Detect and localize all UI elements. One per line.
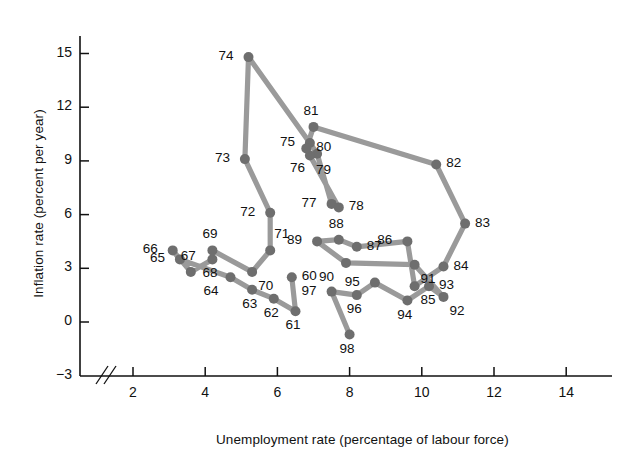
x-axis-label: Unemployment rate (percentage of labour … xyxy=(216,432,509,447)
data-point xyxy=(439,262,449,272)
point-year-label: 69 xyxy=(202,226,217,241)
data-point xyxy=(410,281,420,291)
point-year-label: 75 xyxy=(280,134,295,149)
data-point xyxy=(309,122,319,132)
point-year-label: 85 xyxy=(421,292,436,307)
x-tick-label: 2 xyxy=(113,384,153,400)
data-point xyxy=(291,306,301,316)
point-year-label: 64 xyxy=(203,283,218,298)
data-point xyxy=(402,296,412,306)
data-point xyxy=(327,287,337,297)
x-tick-label: 4 xyxy=(185,384,225,400)
x-tick-label: 12 xyxy=(474,384,514,400)
data-point xyxy=(431,160,441,170)
data-point xyxy=(312,236,322,246)
point-year-label: 63 xyxy=(242,296,257,311)
point-year-label: 96 xyxy=(347,301,362,316)
phillips-curve-figure: Unemployment rate (percentage of labour … xyxy=(0,0,628,469)
point-year-label: 94 xyxy=(397,307,412,322)
data-point xyxy=(247,267,257,277)
data-point xyxy=(247,285,257,295)
point-year-label: 62 xyxy=(264,305,279,320)
data-point xyxy=(269,294,279,304)
point-year-label: 98 xyxy=(340,341,355,356)
x-tick-label: 6 xyxy=(257,384,297,400)
point-year-label: 84 xyxy=(453,258,468,273)
point-year-label: 79 xyxy=(316,162,331,177)
data-point xyxy=(244,52,254,62)
point-year-label: 92 xyxy=(449,303,464,318)
point-year-label: 91 xyxy=(421,271,436,286)
data-point xyxy=(186,267,196,277)
data-point xyxy=(370,278,380,288)
point-year-label: 73 xyxy=(215,150,230,165)
data-point xyxy=(301,143,311,153)
point-year-label: 60 xyxy=(302,268,317,283)
point-year-label: 78 xyxy=(349,198,364,213)
point-year-label: 89 xyxy=(287,232,302,247)
data-point xyxy=(402,236,412,246)
data-point xyxy=(226,272,236,282)
data-point xyxy=(334,235,344,245)
plot-area xyxy=(0,0,628,469)
y-tick-label: 12 xyxy=(34,97,72,113)
data-point xyxy=(352,242,362,252)
data-point xyxy=(334,202,344,212)
y-tick-label: 6 xyxy=(34,205,72,221)
data-point xyxy=(207,254,217,264)
point-year-label: 97 xyxy=(302,283,317,298)
point-year-label: 88 xyxy=(329,216,344,231)
data-point xyxy=(287,272,297,282)
data-point xyxy=(240,154,250,164)
x-tick-label: 14 xyxy=(546,384,586,400)
data-point xyxy=(341,258,351,268)
data-point xyxy=(439,292,449,302)
data-point xyxy=(352,290,362,300)
point-year-label: 72 xyxy=(240,204,255,219)
point-year-label: 66 xyxy=(143,241,158,256)
point-year-label: 77 xyxy=(302,195,317,210)
data-point xyxy=(168,245,178,255)
y-tick-label: −3 xyxy=(34,366,72,382)
x-tick-label: 10 xyxy=(402,384,442,400)
data-point xyxy=(207,245,217,255)
y-tick-label: 0 xyxy=(34,312,72,328)
point-year-label: 68 xyxy=(202,265,217,280)
point-year-label: 83 xyxy=(475,215,490,230)
point-year-label: 82 xyxy=(446,155,461,170)
data-point xyxy=(265,208,275,218)
point-year-label: 80 xyxy=(316,139,331,154)
point-year-label: 61 xyxy=(285,317,300,332)
data-point xyxy=(410,260,420,270)
data-point xyxy=(460,219,470,229)
point-year-label: 70 xyxy=(258,278,273,293)
point-year-label: 76 xyxy=(290,160,305,175)
point-year-label: 74 xyxy=(219,48,234,63)
y-tick-label: 15 xyxy=(34,44,72,60)
point-year-label: 95 xyxy=(345,274,360,289)
point-year-label: 93 xyxy=(439,277,454,292)
data-point xyxy=(345,330,355,340)
x-tick-label: 8 xyxy=(330,384,370,400)
point-year-label: 81 xyxy=(304,103,319,118)
data-point xyxy=(265,245,275,255)
point-year-label: 87 xyxy=(367,238,382,253)
point-year-label: 67 xyxy=(181,248,196,263)
y-tick-label: 3 xyxy=(34,258,72,274)
y-tick-label: 9 xyxy=(34,151,72,167)
point-year-label: 90 xyxy=(319,269,334,284)
